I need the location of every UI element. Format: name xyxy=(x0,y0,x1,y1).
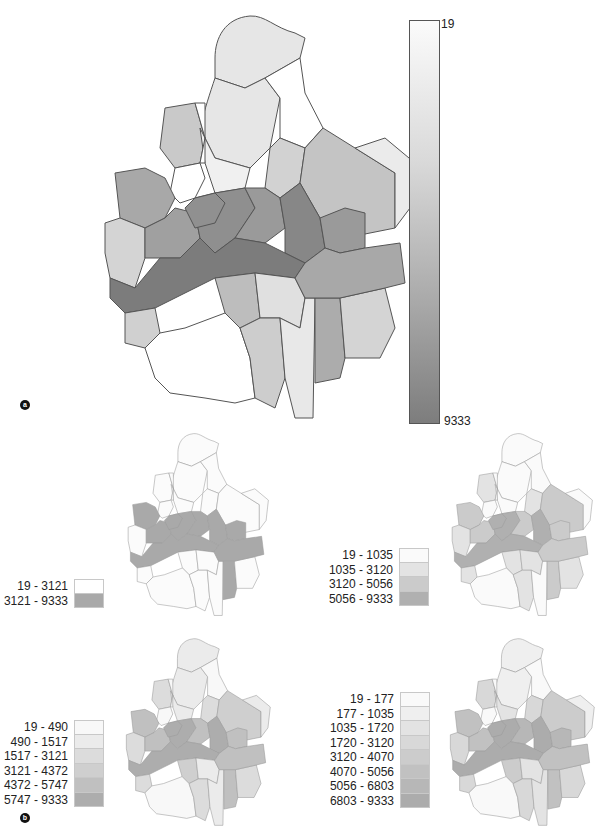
legend-label: 5056 - 9333 xyxy=(329,592,399,606)
legend-label: 5747 - 9333 xyxy=(4,793,74,807)
legend-entry: 5056 - 6803 xyxy=(330,779,430,794)
district xyxy=(469,777,520,819)
district xyxy=(225,520,245,540)
legend-swatch xyxy=(400,779,430,794)
legend-four-class: 19 - 10351035 - 31203120 - 50565056 - 93… xyxy=(329,548,429,606)
legend-swatch xyxy=(74,579,104,594)
legend-swatch xyxy=(74,594,104,609)
legend-swatch xyxy=(400,707,430,722)
colorbar-min-label: 19 xyxy=(441,17,454,31)
legend-swatch xyxy=(400,692,430,707)
district xyxy=(559,765,585,798)
legend-label: 4070 - 5056 xyxy=(330,765,400,779)
legend-entry: 4372 - 5747 xyxy=(4,778,104,793)
district xyxy=(452,525,470,557)
legend-entry: 19 - 490 xyxy=(4,720,104,735)
district xyxy=(145,313,255,403)
legend-label: 5056 - 6803 xyxy=(330,779,400,793)
choropleth-map-two-class xyxy=(106,430,286,620)
legend-swatch xyxy=(400,721,430,736)
legend-two-class: 19 - 31213121 - 9333 xyxy=(4,579,104,608)
legend-swatch xyxy=(400,794,430,809)
legend-label: 1035 - 3120 xyxy=(329,563,399,577)
legend-label: 1720 - 3120 xyxy=(330,736,400,750)
legend-label: 19 - 3121 xyxy=(17,579,74,593)
district xyxy=(450,733,469,766)
legend-eight-class: 19 - 177177 - 10351035 - 17201720 - 3120… xyxy=(330,692,430,808)
legend-swatch xyxy=(74,720,104,735)
legend-entry: 5056 - 9333 xyxy=(329,592,429,607)
legend-entry: 1720 - 3120 xyxy=(330,736,430,751)
legend-swatch xyxy=(74,793,104,808)
legend-entry: 1035 - 3120 xyxy=(329,563,429,578)
legend-entry: 19 - 177 xyxy=(330,692,430,707)
legend-label: 3121 - 4372 xyxy=(4,764,74,778)
district xyxy=(549,520,569,540)
legend-label: 19 - 177 xyxy=(350,692,400,706)
legend-swatch xyxy=(74,735,104,750)
district xyxy=(126,733,145,766)
legend-swatch xyxy=(74,778,104,793)
panel-marker-a: a xyxy=(20,400,30,410)
choropleth-map-eight-class xyxy=(430,635,599,830)
legend-swatch xyxy=(400,765,430,780)
colorbar xyxy=(409,20,440,424)
legend-swatch xyxy=(399,548,429,563)
district xyxy=(315,298,345,383)
legend-entry: 4070 - 5056 xyxy=(330,765,430,780)
choropleth-map-four-class xyxy=(430,430,599,620)
legend-entry: 1035 - 1720 xyxy=(330,721,430,736)
district xyxy=(226,728,247,749)
legend-swatch xyxy=(399,592,429,607)
legend-entry: 3121 - 4372 xyxy=(4,764,104,779)
district xyxy=(128,525,146,557)
legend-swatch xyxy=(399,563,429,578)
legend-entry: 5747 - 9333 xyxy=(4,793,104,808)
district xyxy=(105,218,145,288)
legend-swatch xyxy=(400,750,430,765)
legend-entry: 3120 - 4070 xyxy=(330,750,430,765)
legend-swatch xyxy=(400,736,430,751)
district xyxy=(550,728,571,749)
legend-six-class: 19 - 490490 - 15171517 - 31213121 - 4372… xyxy=(4,720,104,807)
legend-entry: 490 - 1517 xyxy=(4,735,104,750)
district xyxy=(146,568,196,609)
district xyxy=(235,765,261,798)
choropleth-map-a xyxy=(65,0,425,428)
panel-marker-b: b xyxy=(20,813,30,823)
panel-b: 19 - 31213121 - 9333 19 - 10351035 - 312… xyxy=(0,430,573,837)
district xyxy=(558,557,583,589)
choropleth-map-six-class xyxy=(106,635,286,830)
colorbar-max-label: 9333 xyxy=(444,414,471,428)
legend-swatch xyxy=(74,749,104,764)
legend-label: 177 - 1035 xyxy=(337,707,400,721)
legend-label: 490 - 1517 xyxy=(11,735,74,749)
district xyxy=(340,288,395,358)
legend-entry: 19 - 1035 xyxy=(329,548,429,563)
legend-label: 6803 - 9333 xyxy=(330,794,400,808)
legend-label: 3120 - 4070 xyxy=(330,750,400,764)
legend-entry: 6803 - 9333 xyxy=(330,794,430,809)
legend-entry: 3121 - 9333 xyxy=(4,594,104,609)
legend-label: 19 - 1035 xyxy=(342,548,399,562)
legend-entry: 1517 - 3121 xyxy=(4,749,104,764)
legend-label: 4372 - 5747 xyxy=(4,778,74,792)
legend-entry: 19 - 3121 xyxy=(4,579,104,594)
legend-swatch xyxy=(399,577,429,592)
district xyxy=(145,777,196,819)
district xyxy=(234,557,259,589)
legend-entry: 177 - 1035 xyxy=(330,707,430,722)
legend-label: 1517 - 3121 xyxy=(4,749,74,763)
panel-a: 19 9333 a xyxy=(0,0,573,430)
legend-label: 3121 - 9333 xyxy=(4,594,74,608)
legend-entry: 3120 - 5056 xyxy=(329,577,429,592)
legend-swatch xyxy=(74,764,104,779)
legend-label: 3120 - 5056 xyxy=(329,577,399,591)
legend-label: 19 - 490 xyxy=(24,720,74,734)
legend-label: 1035 - 1720 xyxy=(330,721,400,735)
district xyxy=(470,568,520,609)
